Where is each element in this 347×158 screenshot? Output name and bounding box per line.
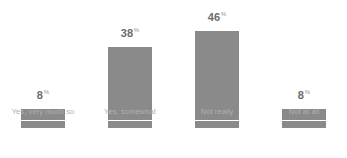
percent-sign-0: % — [44, 89, 50, 95]
percent-sign-2: % — [221, 11, 227, 17]
percent-sign-1: % — [134, 27, 140, 33]
bar-value-1: 38% — [121, 27, 140, 39]
survey-bar-chart: 8% Yes, very much so 38% Yes, somewhat 4… — [0, 0, 347, 158]
plot-area: 8% Yes, very much so 38% Yes, somewhat 4… — [0, 0, 347, 158]
bar-group-2[interactable]: 46% Not really — [174, 0, 260, 128]
bar-group-0[interactable]: 8% Yes, very much so — [0, 0, 86, 128]
bar-separator-3 — [282, 120, 326, 121]
bar-value-3: 8% — [298, 89, 310, 101]
bar-group-3[interactable]: 8% Not at all — [261, 0, 347, 128]
category-label-1: Yes, somewhat — [87, 107, 173, 116]
category-label-0: Yes, very much so — [0, 107, 86, 116]
bar-separator-2 — [195, 120, 239, 121]
bar-value-2: 46% — [208, 11, 227, 23]
bar-separator-0 — [21, 120, 65, 121]
bar-value-0: 8% — [37, 89, 49, 101]
bar-group-1[interactable]: 38% Yes, somewhat — [87, 0, 173, 128]
bar-separator-1 — [108, 120, 152, 121]
category-label-3: Not at all — [261, 107, 347, 116]
category-label-2: Not really — [174, 107, 260, 116]
percent-sign-3: % — [305, 89, 311, 95]
